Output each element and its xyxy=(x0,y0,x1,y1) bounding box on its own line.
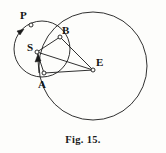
point-marker-A xyxy=(42,71,46,75)
point-marker-E xyxy=(91,68,95,72)
point-marker-S xyxy=(35,50,39,54)
vertex-label-E: E xyxy=(96,57,104,68)
point-marker-P xyxy=(29,23,33,27)
vertex-label-A: A xyxy=(38,79,46,90)
segment-S-B xyxy=(37,37,60,52)
segment-A-E xyxy=(44,70,93,73)
figure-page: P B S A E Fig. 15. xyxy=(0,0,166,153)
figure-caption: Fig. 15. xyxy=(0,134,166,145)
vertex-label-B: B xyxy=(62,25,70,36)
geometry-diagram xyxy=(0,0,166,153)
vertex-label-S: S xyxy=(27,42,33,53)
vertex-label-P: P xyxy=(20,10,27,21)
large-circle xyxy=(39,12,147,120)
